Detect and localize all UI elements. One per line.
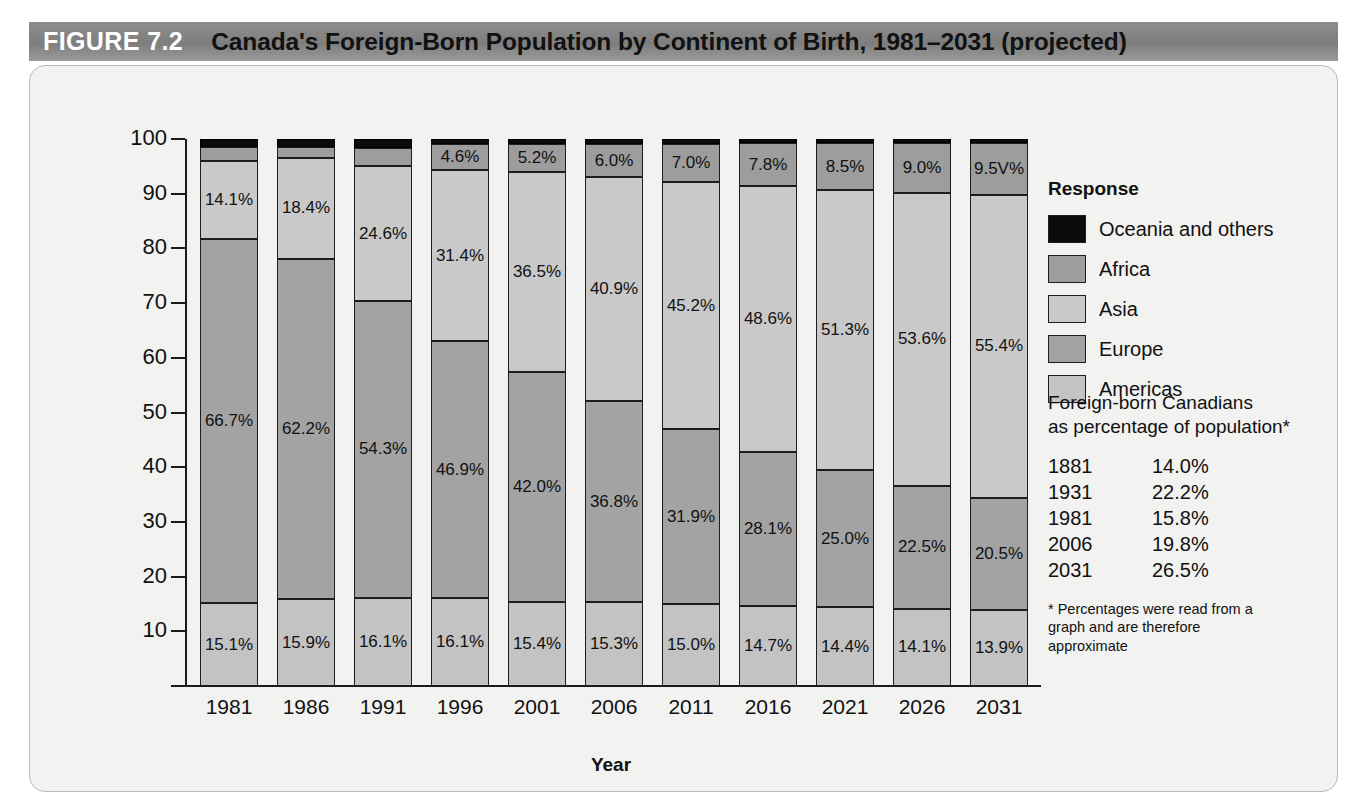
bar-1996[interactable]: 16.1%46.9%31.4%4.6% [431, 139, 489, 686]
bar-segment-oceania-2011[interactable] [662, 139, 720, 144]
stats-row-year: 1981 [1048, 505, 1152, 531]
bar-segment-asia-2016[interactable]: 48.6% [739, 186, 797, 452]
bar-segment-oceania-1981[interactable] [200, 139, 258, 147]
bar-1986[interactable]: 15.9%62.2%18.4% [277, 139, 335, 686]
bar-segment-africa-2021[interactable]: 8.5% [816, 143, 874, 189]
bar-segment-asia-1991[interactable]: 24.6% [354, 166, 412, 301]
bar-segment-asia-2011[interactable]: 45.2% [662, 182, 720, 429]
stats-row-year: 1881 [1048, 453, 1152, 479]
y-axis-line [185, 139, 187, 686]
legend-item-oceania-and-others[interactable]: Oceania and others [1048, 209, 1318, 249]
bar-segment-asia-2026[interactable]: 53.6% [893, 193, 951, 486]
bar-segment-americas-2026[interactable]: 14.1% [893, 609, 951, 686]
x-tick-label-2021: 2021 [816, 695, 874, 719]
bar-2021[interactable]: 14.4%25.0%51.3%8.5% [816, 139, 874, 686]
bar-segment-asia-2031[interactable]: 55.4% [970, 195, 1028, 498]
bar-segment-europe-2026[interactable]: 22.5% [893, 486, 951, 609]
bar-segment-africa-2016[interactable]: 7.8% [739, 143, 797, 186]
bar-segment-americas-1996[interactable]: 16.1% [431, 598, 489, 686]
bar-segment-africa-2031[interactable]: 9.5V% [970, 143, 1028, 195]
bar-segment-asia-2006[interactable]: 40.9% [585, 177, 643, 401]
bar-segment-americas-1981[interactable]: 15.1% [200, 603, 258, 686]
bar-2006[interactable]: 15.3%36.8%40.9%6.0% [585, 139, 643, 686]
figure-number: FIGURE 7.2 [43, 27, 183, 56]
x-tick-label-2006: 2006 [585, 695, 643, 719]
bar-segment-asia-2021[interactable]: 51.3% [816, 190, 874, 471]
legend-item-europe[interactable]: Europe [1048, 329, 1318, 369]
bar-segment-americas-1991[interactable]: 16.1% [354, 598, 412, 686]
figure-title: Canada's Foreign-Born Population by Cont… [211, 28, 1127, 56]
bar-segment-africa-1996[interactable]: 4.6% [431, 144, 489, 169]
bar-segment-europe-2031[interactable]: 20.5% [970, 498, 1028, 610]
bar-segment-oceania-1986[interactable] [277, 139, 335, 147]
stats-row-value: 14.0% [1152, 453, 1209, 479]
bar-1981[interactable]: 15.1%66.7%14.1% [200, 139, 258, 686]
bar-2026[interactable]: 14.1%22.5%53.6%9.0% [893, 139, 951, 686]
bar-segment-asia-2001[interactable]: 36.5% [508, 172, 566, 372]
bar-segment-africa-2001[interactable]: 5.2% [508, 144, 566, 172]
bar-segment-europe-2021[interactable]: 25.0% [816, 470, 874, 607]
bar-segment-americas-2016[interactable]: 14.7% [739, 606, 797, 686]
bar-segment-africa-1981[interactable] [200, 147, 258, 161]
bar-2011[interactable]: 15.0%31.9%45.2%7.0% [662, 139, 720, 686]
stats-row-year: 2031 [1048, 557, 1152, 583]
bar-segment-africa-1986[interactable] [277, 147, 335, 158]
bar-segment-asia-1986[interactable]: 18.4% [277, 158, 335, 259]
chart-panel: Percentage 102030405060708090100 15.1%66… [29, 65, 1338, 792]
bar-segment-europe-1991[interactable]: 54.3% [354, 301, 412, 598]
bar-segment-africa-2011[interactable]: 7.0% [662, 144, 720, 182]
y-tick-label-70: 70 [107, 291, 167, 313]
stats-heading-line2: as percentage of population* [1048, 415, 1328, 439]
y-tick-90 [171, 193, 185, 195]
bar-segment-americas-2021[interactable]: 14.4% [816, 607, 874, 686]
legend-item-label: Africa [1099, 258, 1150, 281]
y-tick-20 [171, 576, 185, 578]
y-tick-50 [171, 412, 185, 414]
legend-item-africa[interactable]: Africa [1048, 249, 1318, 289]
bar-segment-oceania-1996[interactable] [431, 139, 489, 144]
bar-segment-asia-1981[interactable]: 14.1% [200, 161, 258, 238]
bar-segment-europe-1981[interactable]: 66.7% [200, 239, 258, 604]
bar-segment-americas-2006[interactable]: 15.3% [585, 602, 643, 686]
bar-segment-europe-2016[interactable]: 28.1% [739, 452, 797, 606]
legend-item-label: Europe [1099, 338, 1164, 361]
stats-row-year: 1931 [1048, 479, 1152, 505]
bar-segment-oceania-2021[interactable] [816, 139, 874, 143]
x-tick-label-2011: 2011 [662, 695, 720, 719]
stats-row-value: 15.8% [1152, 505, 1209, 531]
bar-segment-oceania-2031[interactable] [970, 139, 1028, 143]
bar-segment-americas-2031[interactable]: 13.9% [970, 610, 1028, 686]
bar-segment-oceania-2016[interactable] [739, 139, 797, 143]
bar-segment-americas-1986[interactable]: 15.9% [277, 599, 335, 686]
stats-row: 198115.8% [1048, 505, 1328, 531]
bar-segment-africa-1991[interactable] [354, 148, 412, 166]
bar-segment-europe-2001[interactable]: 42.0% [508, 372, 566, 602]
bar-2031[interactable]: 13.9%20.5%55.4%9.5V% [970, 139, 1028, 686]
legend-item-asia[interactable]: Asia [1048, 289, 1318, 329]
bar-segment-europe-1986[interactable]: 62.2% [277, 259, 335, 599]
bar-2016[interactable]: 14.7%28.1%48.6%7.8% [739, 139, 797, 686]
bar-segment-asia-1996[interactable]: 31.4% [431, 170, 489, 342]
stats-row-value: 19.8% [1152, 531, 1209, 557]
legend: Response Oceania and othersAfricaAsiaEur… [1048, 178, 1318, 409]
bar-segment-africa-2026[interactable]: 9.0% [893, 143, 951, 192]
bar-segment-europe-2006[interactable]: 36.8% [585, 401, 643, 602]
bar-segment-africa-2006[interactable]: 6.0% [585, 144, 643, 177]
x-tick-label-2016: 2016 [739, 695, 797, 719]
y-tick-label-10: 10 [107, 619, 167, 641]
bar-segment-oceania-2001[interactable] [508, 139, 566, 144]
bar-segment-europe-1996[interactable]: 46.9% [431, 341, 489, 598]
bar-1991[interactable]: 16.1%54.3%24.6% [354, 139, 412, 686]
bar-segment-americas-2011[interactable]: 15.0% [662, 604, 720, 686]
x-tick-label-1981: 1981 [200, 695, 258, 719]
bar-segment-oceania-2026[interactable] [893, 139, 951, 143]
figure-header: FIGURE 7.2 Canada's Foreign-Born Populat… [29, 22, 1338, 61]
bar-segment-americas-2001[interactable]: 15.4% [508, 602, 566, 686]
y-tick-label-40: 40 [107, 455, 167, 477]
bar-segment-europe-2011[interactable]: 31.9% [662, 429, 720, 603]
x-tick-label-2001: 2001 [508, 695, 566, 719]
bar-segment-oceania-2006[interactable] [585, 139, 643, 144]
y-tick-80 [171, 247, 185, 249]
bar-segment-oceania-1991[interactable] [354, 139, 412, 148]
bar-2001[interactable]: 15.4%42.0%36.5%5.2% [508, 139, 566, 686]
